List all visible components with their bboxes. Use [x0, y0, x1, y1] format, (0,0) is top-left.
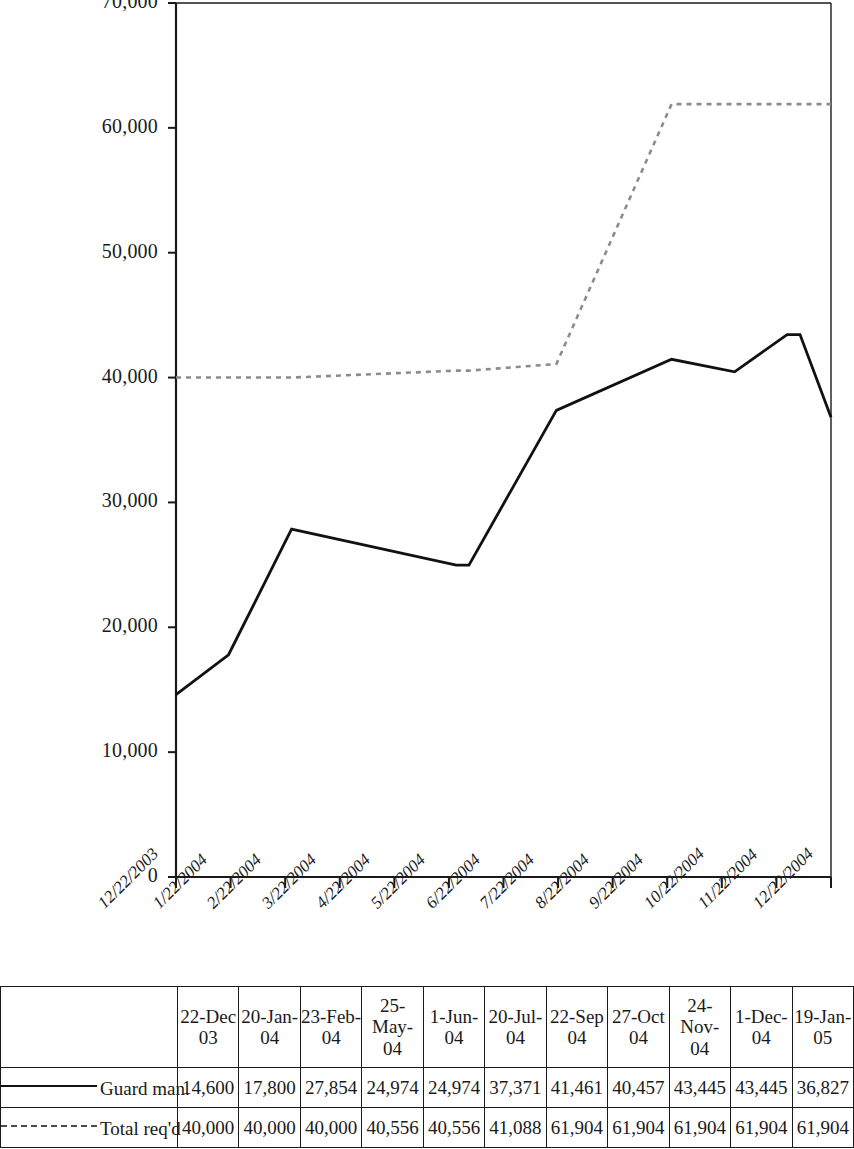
- table-cell: 24,974: [362, 1068, 423, 1108]
- header-line: 22-Dec: [178, 1006, 238, 1027]
- table-corner-cell: [1, 987, 178, 1068]
- y-axis-tick-label: 30,000: [38, 489, 158, 512]
- y-axis-tick-label: 50,000: [38, 240, 158, 263]
- header-line: 22-Sep: [547, 1006, 607, 1027]
- header-line: 04: [301, 1027, 361, 1048]
- y-axis-tick-label: 10,000: [38, 739, 158, 762]
- header-line: 04: [670, 1038, 730, 1059]
- dotted-line-swatch: [1, 1125, 97, 1128]
- table-column-header: 27-Oct04: [608, 987, 669, 1068]
- table-column-header: 22-Sep04: [546, 987, 607, 1068]
- table-cell: 40,556: [423, 1108, 484, 1148]
- table-cell: 61,904: [731, 1108, 792, 1148]
- table-column-header: 20-Jul-04: [485, 987, 546, 1068]
- table-cell: 40,556: [362, 1108, 423, 1148]
- table-cell: 17,800: [239, 1068, 300, 1108]
- header-line: 04: [239, 1027, 299, 1048]
- header-line: 04: [424, 1027, 484, 1048]
- header-line: 04: [362, 1038, 422, 1059]
- table-column-header: 22-Dec03: [178, 987, 239, 1068]
- header-line: 03: [178, 1027, 238, 1048]
- legend-cell-1: Guard man.: [1, 1068, 178, 1108]
- y-axis-tick-label: 70,000: [38, 0, 158, 13]
- header-line: 23-Feb-: [301, 1006, 361, 1027]
- table-column-header: 1-Jun-04: [423, 987, 484, 1068]
- solid-line-swatch: [1, 1085, 97, 1088]
- table-column-header: 19-Jan-05: [792, 987, 853, 1068]
- header-line: 20-Jan-: [239, 1006, 299, 1027]
- header-line: 04: [731, 1027, 791, 1048]
- header-line: 1-Dec-: [731, 1006, 791, 1027]
- legend-cell-2: Total req'd: [1, 1108, 178, 1148]
- chart-region: 010,00020,00030,00040,00050,00060,00070,…: [0, 0, 841, 985]
- table-row: Guard man.14,60017,80027,85424,97424,974…: [1, 1068, 854, 1108]
- table-cell: 41,088: [485, 1108, 546, 1148]
- table-cell: 61,904: [546, 1108, 607, 1148]
- table-cell: 40,457: [608, 1068, 669, 1108]
- header-line: Nov-: [670, 1016, 730, 1037]
- table-cell: 40,000: [239, 1108, 300, 1148]
- table-cell: 40,000: [178, 1108, 239, 1148]
- table-column-header: 23-Feb-04: [300, 987, 361, 1068]
- table-cell: 43,445: [669, 1068, 730, 1108]
- table-cell: 61,904: [608, 1108, 669, 1148]
- header-line: 19-Jan-: [793, 1006, 853, 1027]
- header-line: 04: [485, 1027, 545, 1048]
- table-header-row: 22-Dec0320-Jan-0423-Feb-0425-May-041-Jun…: [1, 987, 854, 1068]
- legend-label: Total req'd: [100, 1118, 181, 1139]
- y-axis-tick-label: 20,000: [38, 614, 158, 637]
- table-row: Total req'd40,00040,00040,00040,55640,55…: [1, 1108, 854, 1148]
- series-line-1: [176, 335, 831, 695]
- legend-label: Guard man.: [100, 1078, 190, 1099]
- table-cell: 27,854: [300, 1068, 361, 1108]
- table-cell: 61,904: [669, 1108, 730, 1148]
- data-table-region: 22-Dec0320-Jan-0423-Feb-0425-May-041-Jun…: [0, 986, 841, 1148]
- y-axis-tick-label: 60,000: [38, 115, 158, 138]
- table-column-header: 24-Nov-04: [669, 987, 730, 1068]
- header-line: May-: [362, 1016, 422, 1037]
- table-cell: 41,461: [546, 1068, 607, 1108]
- header-line: 25-: [362, 995, 422, 1016]
- header-line: 27-Oct: [608, 1006, 668, 1027]
- table-column-header: 1-Dec-04: [731, 987, 792, 1068]
- table-cell: 24,974: [423, 1068, 484, 1108]
- header-line: 05: [793, 1027, 853, 1048]
- table-column-header: 20-Jan-04: [239, 987, 300, 1068]
- table-column-header: 25-May-04: [362, 987, 423, 1068]
- header-line: 04: [547, 1027, 607, 1048]
- table-cell: 37,371: [485, 1068, 546, 1108]
- table-cell: 43,445: [731, 1068, 792, 1108]
- table-cell: 40,000: [300, 1108, 361, 1148]
- y-axis-tick-label: 40,000: [38, 365, 158, 388]
- table-cell: 36,827: [792, 1068, 853, 1108]
- header-line: 20-Jul-: [485, 1006, 545, 1027]
- header-line: 04: [608, 1027, 668, 1048]
- table-cell: 61,904: [792, 1108, 853, 1148]
- header-line: 24-: [670, 995, 730, 1016]
- header-line: 1-Jun-: [424, 1006, 484, 1027]
- series-line-2: [176, 104, 831, 377]
- series-data-table: 22-Dec0320-Jan-0423-Feb-0425-May-041-Jun…: [0, 986, 854, 1148]
